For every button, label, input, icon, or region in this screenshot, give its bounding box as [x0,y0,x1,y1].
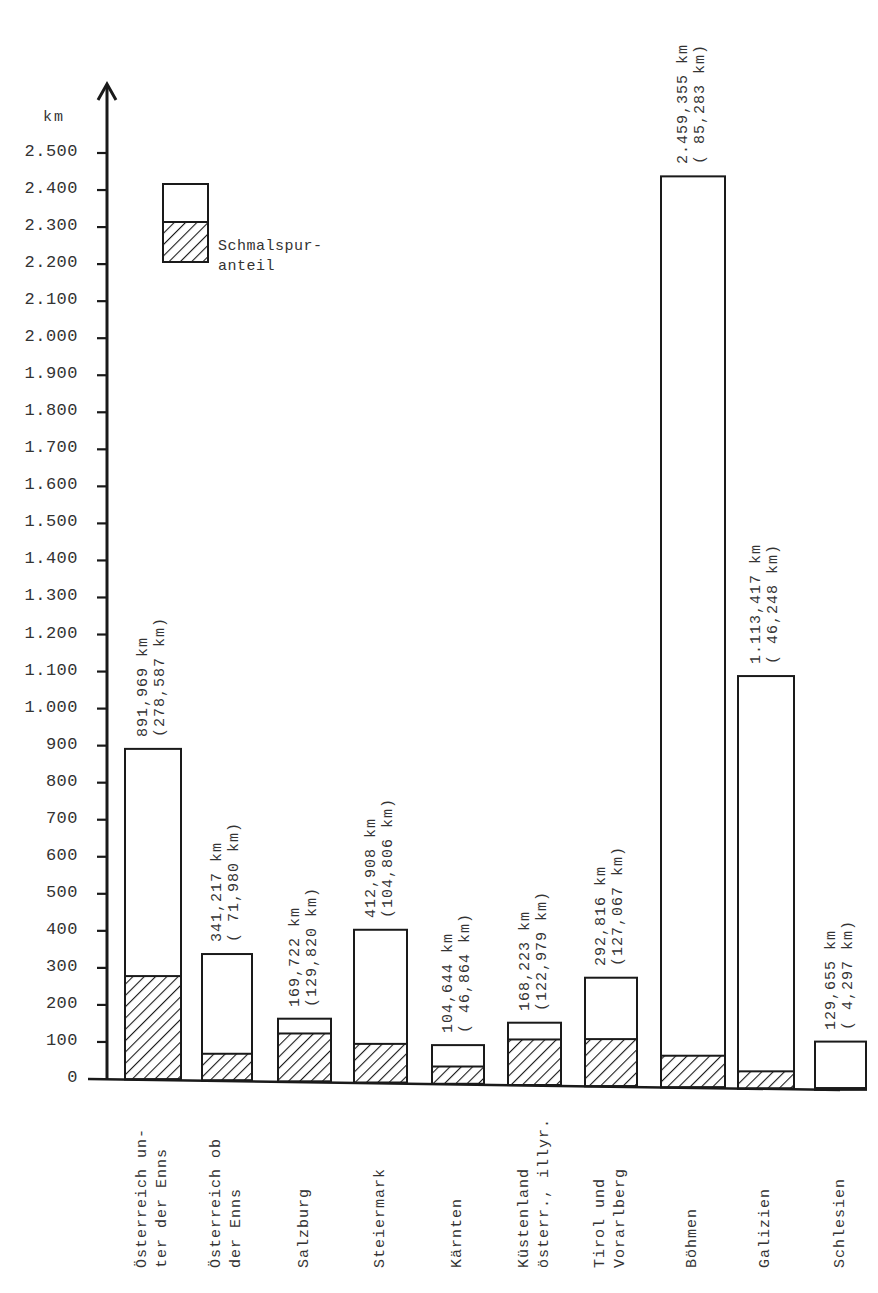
bar-narrow-gauge [815,1088,866,1090]
bar-value-label: 292,816 km (127,067 km) [593,846,627,966]
y-tick-label: 1.600 [8,475,78,494]
bar-group [432,1045,484,1084]
bar-narrow-gauge [125,976,181,1079]
bar-total [661,176,725,1087]
y-tick-label: 1.100 [8,661,78,680]
y-tick-label: 2.400 [8,179,78,198]
bar-group [738,676,794,1088]
bar-narrow-gauge [738,1071,794,1088]
category-label: Österreich ob der Enns [207,1138,247,1268]
bar-narrow-gauge [278,1033,331,1081]
bar-narrow-gauge [508,1039,561,1085]
bar-group [202,954,252,1080]
legend [163,184,208,262]
y-tick-label: 0 [8,1068,78,1087]
category-label: Salzburg [295,1188,315,1268]
bar-group [585,978,637,1086]
y-tick-label: 200 [8,994,78,1013]
bar-narrow-gauge [585,1039,637,1086]
category-label: Küstenland österr., illyr. [515,1118,555,1268]
bar-value-label: 169,722 km (129,820 km) [287,887,321,1007]
y-tick-label: 1.400 [8,549,78,568]
bar-value-label: 1.113,417 km ( 46,248 km) [748,544,782,664]
bar-group [278,1019,331,1082]
y-tick-label: 2.100 [8,290,78,309]
y-tick-label: 800 [8,772,78,791]
y-tick-label: 1.700 [8,438,78,457]
y-tick-label: 2.000 [8,327,78,346]
y-tick-label: 400 [8,920,78,939]
y-tick-label: 1.000 [8,698,78,717]
y-tick-label: 2.200 [8,253,78,272]
bar-narrow-gauge [661,1056,725,1088]
category-label: Tirol und Vorarlberg [591,1168,631,1268]
y-tick-label: 900 [8,735,78,754]
bar-group [815,1042,866,1090]
bar-total [815,1042,866,1090]
bar-narrow-gauge [202,1054,252,1081]
y-tick-label: 2.500 [8,142,78,161]
category-label: Böhmen [683,1208,703,1268]
bar-value-label: 891,969 km (278,587 km) [135,617,169,737]
category-label: Steiermark [371,1168,391,1268]
y-tick-label: 1.800 [8,401,78,420]
bar-value-label: 104,644 km ( 46,864 km) [440,913,474,1033]
bar-group [661,176,725,1087]
bar-total [738,676,794,1088]
category-label: Kärnten [448,1198,468,1268]
bar-value-label: 2.459,355 km ( 85,283 km) [675,44,709,164]
y-tick-label: 1.300 [8,586,78,605]
bar-group [354,930,407,1083]
y-tick-label: 700 [8,809,78,828]
bar-group [125,749,181,1079]
y-tick-label: 1.200 [8,624,78,643]
plot-area [0,0,878,1293]
category-label: Galizien [756,1188,776,1268]
bar-group [508,1023,561,1085]
category-label: Österreich un- ter der Enns [133,1128,173,1268]
y-tick-label: 1.900 [8,364,78,383]
y-tick-label: 300 [8,957,78,976]
y-tick-label: 100 [8,1031,78,1050]
bar-narrow-gauge [432,1067,484,1084]
bar-narrow-gauge [354,1044,407,1083]
y-tick-label: 2.300 [8,216,78,235]
bar-value-label: 412,908 km (104,806 km) [363,798,397,918]
category-label: Schlesien [831,1178,851,1268]
bar-value-label: 168,223 km (122,979 km) [517,891,551,1011]
y-tick-label: 500 [8,883,78,902]
bar-value-label: 129,655 km ( 4,297 km) [823,920,857,1030]
bar-value-label: 341,217 km ( 71,980 km) [209,822,243,942]
y-tick-label: 1.500 [8,512,78,531]
narrow-gauge-bar-chart: km Schmalspur- anteil 010020030040050060… [0,0,878,1293]
y-tick-label: 600 [8,846,78,865]
